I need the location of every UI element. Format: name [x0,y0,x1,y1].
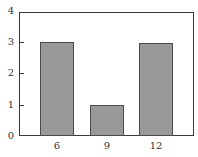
y-tick-label-2: 2 [2,68,14,78]
bar-chart: 0 1 2 3 4 6 9 12 [0,0,198,157]
x-tick-label-6: 6 [42,141,72,151]
y-tick-3 [20,42,24,43]
bar-12 [139,43,173,136]
x-tick-label-12: 12 [141,141,171,151]
y-tick-label-0: 0 [2,131,14,141]
bar-9 [90,105,124,136]
y-tick-label-1: 1 [2,100,14,110]
y-tick-label-3: 3 [2,37,14,47]
y-tick-2 [20,73,24,74]
x-tick-label-9: 9 [92,141,122,151]
y-tick-1 [20,105,24,106]
bar-6 [40,42,74,136]
y-tick-label-4: 4 [2,6,14,16]
